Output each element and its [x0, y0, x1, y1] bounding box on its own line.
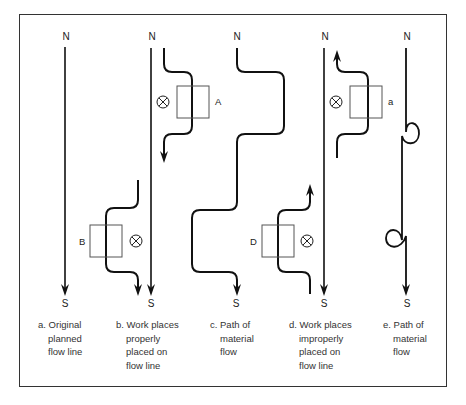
workplace-box-a-lower — [350, 86, 382, 118]
panel-a-flow-line — [61, 47, 69, 296]
panel-b-north-label: N — [148, 31, 155, 42]
panel-a-caption: a. Original planned flow line — [38, 318, 82, 359]
panel-d-north-label: N — [321, 31, 328, 42]
panel-d-south-label: S — [321, 298, 328, 309]
panel-b-workplace-b-marker — [130, 235, 142, 247]
panel-e-north-label: N — [403, 31, 410, 42]
panel-e-south-label: S — [404, 298, 411, 309]
panel-d-workplace-a-marker — [330, 96, 342, 108]
panel-b-south-label: S — [148, 298, 155, 309]
panel-c-caption: c. Path of material flow — [210, 318, 254, 359]
panel-e-material-path — [386, 48, 419, 296]
panel-a-south-label: S — [62, 298, 69, 309]
panel-b-workplace-a-marker — [157, 96, 169, 108]
flow-line-diagram: N N N N N S S S S S A B a D a. Original … — [0, 0, 466, 405]
panel-b-caption: b. Work places properly placed on flow l… — [116, 318, 179, 372]
workplace-label-b: B — [79, 236, 85, 247]
panel-e-caption: e. Path of material flow — [383, 318, 427, 359]
panel-b-main-line — [147, 48, 155, 296]
panel-a-north-label: N — [62, 31, 69, 42]
workplace-label-a-lower: a — [388, 96, 393, 107]
panel-c-material-path — [192, 48, 284, 296]
panel-c-north-label: N — [233, 31, 240, 42]
workplace-label-a: A — [215, 96, 221, 107]
workplace-label-d: D — [250, 236, 257, 247]
panel-d-main-line — [320, 48, 328, 296]
panel-b-path-through-b — [106, 180, 142, 296]
panel-c-south-label: S — [233, 298, 240, 309]
panel-d-workplace-d-marker — [301, 235, 313, 247]
panel-b-path-through-a — [160, 48, 192, 163]
panel-d-caption: d. Work places improperly placed on flow… — [289, 318, 352, 372]
